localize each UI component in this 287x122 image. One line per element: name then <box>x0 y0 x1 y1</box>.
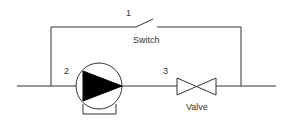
valve-name-label: Valve <box>186 103 208 112</box>
valve-number-label: 3 <box>163 67 168 76</box>
bypass-right-branch <box>157 27 241 86</box>
switch-name-label: Switch <box>133 36 160 45</box>
valve-icon <box>177 78 216 95</box>
switch-number-label: 1 <box>126 9 131 18</box>
pump-number-label: 2 <box>64 67 69 76</box>
pump-circuit-diagram <box>0 0 287 122</box>
switch-blade <box>136 19 153 27</box>
pump-icon <box>76 63 122 114</box>
